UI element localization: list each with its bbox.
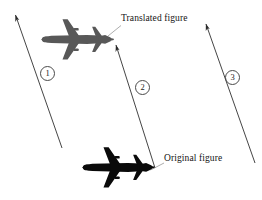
vector-marker-3: 3: [225, 70, 240, 85]
leader-line-translated: [108, 26, 121, 37]
translation-diagram: [0, 0, 262, 200]
arrow-line-3: [206, 24, 255, 163]
vector-marker-2: 2: [135, 80, 150, 95]
translated-figure-label: Translated figure: [121, 13, 188, 23]
original-figure-label: Original figure: [164, 153, 222, 163]
diagram-canvas: Translated figure Original figure 1 2 3: [0, 0, 262, 200]
vector-marker-1: 1: [40, 66, 55, 81]
original-airplane-shape: [82, 147, 155, 187]
arrow-line-1: [16, 15, 63, 148]
arrow-line-2: [116, 45, 155, 168]
translated-airplane-shape: [41, 19, 114, 59]
